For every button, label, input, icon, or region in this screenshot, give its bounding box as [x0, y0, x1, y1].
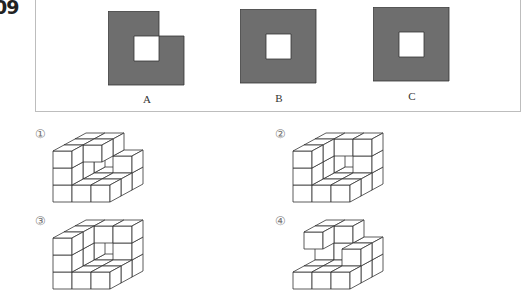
- option-number: ③: [35, 214, 46, 229]
- shape-label-c: C: [402, 90, 422, 102]
- shape-label-b: B: [269, 92, 289, 104]
- option-number: ①: [35, 127, 46, 142]
- option-number: ④: [275, 214, 286, 229]
- cube-figure: [287, 214, 407, 301]
- cube-figure: [287, 127, 407, 212]
- shape-label-a: A: [137, 93, 157, 105]
- shape-a: [108, 11, 186, 87]
- question-number: 09: [0, 0, 18, 18]
- cube-figure: [47, 214, 167, 301]
- cube-figure: [47, 127, 167, 212]
- shape-b: [240, 9, 318, 85]
- option-number: ②: [275, 127, 286, 142]
- shape-c: [373, 7, 451, 83]
